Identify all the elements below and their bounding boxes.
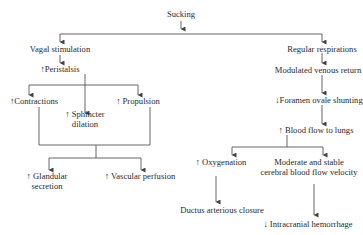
node-cerebral-blood-flow: Moderate and stable cerebral blood flow … — [260, 157, 357, 177]
sphincter-line2: dilation — [65, 119, 104, 129]
node-blood-flow-lungs: ↑ Blood flow to lungs — [279, 125, 354, 135]
node-oxygenation: ↑ Oxygenation — [196, 157, 247, 167]
node-vagal-stimulation: Vagal stimulation — [30, 44, 90, 54]
cerebral-line1: Moderate and stable — [260, 157, 357, 167]
node-sucking: Sucking — [167, 9, 195, 19]
node-vascular-perfusion: ↑ Vascular perfusion — [105, 171, 175, 181]
node-modulated-venous-return: Modulated venous return — [275, 65, 361, 75]
glandular-line1: ↑ Glandular — [27, 171, 68, 181]
node-ductus-closure: Ductus arterious closure — [180, 205, 264, 215]
node-contractions: ↑Contractions — [10, 96, 58, 106]
node-glandular-secretion: ↑ Glandular secretion — [27, 171, 68, 191]
glandular-line2: secretion — [27, 181, 68, 191]
node-intracranial-hemorrhage: ↓ Intracranial hemorrhage — [263, 219, 352, 229]
node-foramen-ovale: ↓Foramen ovale shunting — [275, 95, 362, 105]
sphincter-line1: ↑ Sphincter — [65, 109, 104, 119]
node-propulsion: ↑ Propulsion — [116, 96, 160, 106]
cerebral-line2: cerebral blood flow velocity — [260, 167, 357, 177]
node-sphincter-dilation: ↑ Sphincter dilation — [65, 109, 104, 129]
node-peristalsis: ↑Peristalsis — [40, 64, 79, 74]
node-regular-respirations: Regular respirations — [287, 44, 356, 54]
